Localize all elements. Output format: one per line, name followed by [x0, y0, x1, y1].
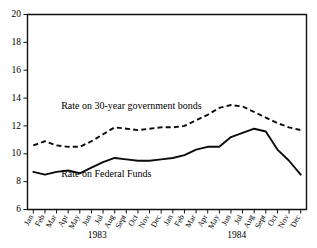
data-series-group: [33, 105, 300, 175]
x-axis-tick-label: Jun: [80, 213, 93, 227]
y-axis-tick-group: 68101214161820: [12, 9, 28, 214]
y-axis-tick-label: 18: [12, 37, 22, 47]
x-axis-tick-label: May: [67, 213, 82, 230]
year-group-label: 1984: [227, 230, 246, 240]
x-axis-tick-label: Sept: [113, 213, 128, 230]
x-axis-tick-label: Mar: [184, 213, 198, 229]
annotation-bonds-label: Rate on 30-year government bonds: [61, 100, 202, 111]
y-axis-tick-label: 16: [12, 65, 22, 75]
y-axis-tick-label: 20: [12, 9, 22, 19]
series-annotation-group: Rate on 30-year government bondsRate on …: [61, 100, 202, 179]
x-axis-tick-label: Jun: [220, 213, 233, 227]
x-axis-tick-label: May: [206, 213, 221, 230]
interest-rates-line-chart: 68101214161820 JanFebMarAprMayJunJulAugS…: [0, 0, 317, 248]
x-axis-tick-label: Dec: [149, 213, 163, 229]
x-axis-tick-label: Mar: [44, 213, 58, 229]
x-axis-label-group: JanFebMarAprMayJunJulAugSeptOctNovDecJan…: [22, 213, 303, 231]
year-group-label: 1983: [88, 230, 107, 240]
x-axis-tick-label: Sept: [253, 213, 268, 230]
chart-container: 68101214161820 JanFebMarAprMayJunJulAugS…: [0, 0, 317, 248]
y-axis-tick-label: 10: [12, 148, 22, 158]
axis-frame: [28, 15, 307, 210]
y-axis-tick-label: 8: [16, 176, 21, 186]
x-axis-tick-label: Nov: [276, 213, 290, 229]
x-axis-tick-label: Nov: [137, 213, 151, 229]
annotation-federal-funds-label: Rate on Federal Funds: [61, 168, 151, 179]
series-line-bonds: [33, 105, 300, 147]
year-label-group: 19831984: [88, 230, 247, 240]
y-axis-tick-label: 12: [12, 121, 22, 131]
y-axis-tick-label: 14: [12, 93, 22, 103]
y-axis-tick-label: 6: [16, 204, 21, 214]
x-axis-tick-label: Dec: [288, 213, 302, 229]
